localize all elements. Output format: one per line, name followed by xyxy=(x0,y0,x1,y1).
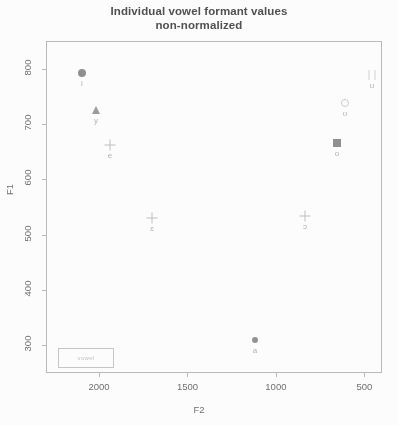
x-tick-mark xyxy=(364,373,365,377)
plot-area xyxy=(46,41,382,373)
y-tick-label: 700 xyxy=(16,117,38,128)
y-tick-mark xyxy=(42,235,46,236)
legend: vowel xyxy=(58,348,114,368)
y-tick-mark xyxy=(42,69,46,70)
vowel-formant-chart: Individual vowel formant values non-norm… xyxy=(0,0,398,425)
y-tick-mark xyxy=(42,124,46,125)
y-axis-title: F1 xyxy=(4,184,15,195)
y-tick-label: 600 xyxy=(16,172,38,183)
x-tick-mark xyxy=(187,373,188,377)
x-tick-mark xyxy=(276,373,277,377)
chart-title: Individual vowel formant values non-norm… xyxy=(0,4,398,32)
x-tick-label: 500 xyxy=(356,381,372,392)
x-tick-label: 1500 xyxy=(177,381,198,392)
chart-title-line-2: non-normalized xyxy=(0,18,398,32)
y-tick-label: 500 xyxy=(16,228,38,239)
y-tick-label: 300 xyxy=(16,338,38,349)
y-tick-mark xyxy=(42,290,46,291)
legend-label: vowel xyxy=(78,355,95,361)
y-tick-label: 800 xyxy=(16,62,38,73)
y-tick-mark xyxy=(42,179,46,180)
x-tick-label: 2000 xyxy=(88,381,109,392)
x-axis-title: F2 xyxy=(0,404,398,415)
x-tick-label: 1000 xyxy=(265,381,286,392)
y-tick-label: 400 xyxy=(16,283,38,294)
chart-title-line-1: Individual vowel formant values xyxy=(0,4,398,18)
y-tick-mark xyxy=(42,345,46,346)
x-tick-mark xyxy=(99,373,100,377)
